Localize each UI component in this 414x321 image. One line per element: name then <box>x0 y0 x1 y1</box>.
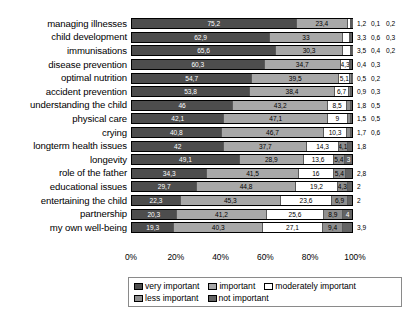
legend-swatch-icon <box>134 295 143 302</box>
category-label: understanding the child <box>0 100 131 110</box>
chart-row: partnership20,341,225,68,94 <box>0 207 414 221</box>
stacked-bar: 65,630,33,50,40,2 <box>131 45 353 56</box>
bar-segment-moderately-important: 4,3 <box>341 60 350 69</box>
bar-segment-important: 23,4 <box>297 19 348 28</box>
segment-value: 40,8 <box>170 129 183 136</box>
category-label: managing illnesses <box>0 19 131 29</box>
bar-segment-important: 43,2 <box>233 101 328 110</box>
bar-segment-important: 41,2 <box>177 210 268 219</box>
bar-segment-moderately-important: 3,3 <box>343 33 350 42</box>
bar-segment-moderately-important: 23,6 <box>281 196 333 205</box>
stacked-bar: 53,838,46,70,90,3 <box>131 86 353 97</box>
chart-row: child development62,9333,30,60,33,30,60,… <box>0 31 414 45</box>
trailing-value: 0,1 <box>371 20 386 27</box>
stacked-bar: 42,147,191,50,5 <box>131 113 353 124</box>
bar-segment-not-important: 2,8 <box>346 169 352 178</box>
trailing-value: 1,8 <box>357 143 371 150</box>
trailing-value: 0,9 <box>357 88 371 95</box>
trailing-values: 0,40,3 <box>353 59 386 70</box>
segment-value: 45,3 <box>224 197 237 204</box>
stacked-bar-chart: managing illnesses75,223,41,20,10,21,20,… <box>0 0 414 321</box>
legend-swatch-icon <box>208 283 217 290</box>
segment-value: 41,5 <box>246 170 259 177</box>
x-axis: 0%20%40%60%80%100% <box>131 252 355 264</box>
category-label: longevity <box>0 155 131 165</box>
trailing-value: 2 <box>357 197 371 204</box>
bar-segment-important: 39,5 <box>252 74 339 83</box>
bar-segment-not-important: 0,5 <box>351 101 352 110</box>
bar-segment-less-important: 6,9 <box>332 196 347 205</box>
legend-item-moderately-important[interactable]: moderately important <box>264 281 356 291</box>
x-axis-tick: 80% <box>302 252 319 262</box>
segment-value: 9,4 <box>328 224 337 231</box>
stacked-bar: 19,340,327,19,43,9 <box>131 222 353 233</box>
segment-value: 28,9 <box>265 156 278 163</box>
bar-segment-less-important: 5,4 <box>334 169 346 178</box>
bar-segment-very-important: 75,2 <box>132 19 297 28</box>
segment-value: 20,3 <box>147 211 160 218</box>
legend-label: important <box>219 281 255 291</box>
bar-segment-moderately-important: 25,6 <box>267 210 323 219</box>
legend-swatch-icon <box>134 283 143 290</box>
stacked-bar: 4643,28,51,80,5 <box>131 100 353 111</box>
segment-value: 53,8 <box>184 88 197 95</box>
bar-segment-less-important: 8,9 <box>324 210 344 219</box>
trailing-value: 1,5 <box>357 115 371 122</box>
chart-row: educational issues29,744,819,24,322 <box>0 180 414 194</box>
bar-segment-less-important: 4,1 <box>339 142 348 151</box>
x-axis-tick: 20% <box>167 252 184 262</box>
trailing-value: 0,4 <box>357 61 371 68</box>
chart-row: accident prevention53,838,46,70,90,30,90… <box>0 85 414 99</box>
bar-segment-very-important: 22,3 <box>132 196 181 205</box>
bar-segment-very-important: 65,6 <box>132 46 276 55</box>
segment-value: 34,7 <box>296 61 309 68</box>
segment-value: 54,7 <box>185 75 198 82</box>
legend-item-very-important[interactable]: very important <box>134 281 199 291</box>
bar-segment-moderately-important: 13,6 <box>304 155 334 164</box>
trailing-values: 3,50,40,2 <box>353 45 398 56</box>
bar-segment-not-important: 2 <box>348 182 352 191</box>
segment-value: 22,3 <box>150 197 163 204</box>
bar-segment-not-important: 0,5 <box>351 114 352 123</box>
chart-row: immunisations65,630,33,50,40,23,50,40,2 <box>0 44 414 58</box>
bar-segment-not-important: 0,3 <box>351 33 352 42</box>
legend-label: very important <box>145 281 199 291</box>
chart-row: longterm health issues4237,714,34,11,81,… <box>0 139 414 153</box>
category-label: role of the father <box>0 168 131 178</box>
segment-value: 34,3 <box>163 170 176 177</box>
trailing-value: 0,3 <box>386 34 398 41</box>
segment-value: 14,3 <box>316 143 329 150</box>
segment-value: 23,6 <box>300 197 313 204</box>
segment-value: 37,7 <box>259 143 272 150</box>
bar-segment-important: 37,7 <box>224 142 307 151</box>
trailing-value: 0,5 <box>371 115 386 122</box>
legend-item-not-important[interactable]: not important <box>208 293 269 303</box>
bar-segment-very-important: 19,3 <box>132 223 174 232</box>
trailing-value: 0,3 <box>371 88 386 95</box>
segment-value: 6,7 <box>337 88 346 95</box>
trailing-values: 0,50,2 <box>353 73 386 84</box>
legend-item-important[interactable]: important <box>208 281 255 291</box>
segment-value: 5,1 <box>340 75 349 82</box>
trailing-value: 1,2 <box>357 20 371 27</box>
trailing-values: 0,90,3 <box>353 86 386 97</box>
x-axis-tick: 60% <box>257 252 274 262</box>
stacked-bar: 54,739,55,10,50,2 <box>131 73 353 84</box>
segment-value: 4 <box>346 211 350 218</box>
trailing-value: 0,2 <box>386 20 398 27</box>
segment-value: 44,8 <box>240 183 253 190</box>
segment-value: 8,9 <box>328 211 337 218</box>
bar-segment-moderately-important: 3,5 <box>343 46 351 55</box>
trailing-values: 2 <box>353 195 371 206</box>
bar-segment-important: 28,9 <box>240 155 304 164</box>
segment-value: 39,5 <box>289 75 302 82</box>
bar-segment-important: 46,7 <box>222 128 325 137</box>
bar-segment-important: 45,3 <box>181 196 281 205</box>
segment-value: 6,9 <box>335 197 344 204</box>
bar-segment-not-important: 3 <box>345 155 352 164</box>
segment-value: 5,4 <box>334 156 343 163</box>
trailing-values: 2 <box>353 181 371 192</box>
legend-swatch-icon <box>264 283 273 290</box>
legend-item-less-important[interactable]: less important <box>134 293 199 303</box>
bar-segment-moderately-important: 19,2 <box>296 182 338 191</box>
